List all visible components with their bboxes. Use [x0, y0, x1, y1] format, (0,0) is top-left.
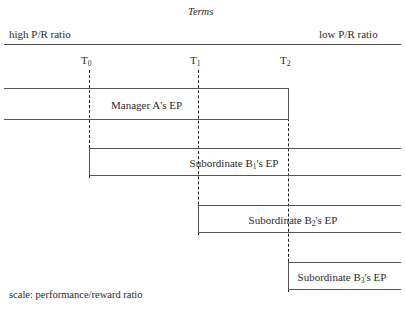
bar-subordinate-b3-bottom-edge: [288, 289, 401, 290]
tick-base-t2: T: [280, 54, 287, 66]
bar-manager-a-label: Manager A's EP: [4, 99, 289, 111]
bar-subordinate-b3-prefix: Subordinate B: [298, 271, 361, 283]
tick-sub-t0: 0: [88, 59, 92, 68]
bar-subordinate-b2-top-edge: [198, 205, 401, 206]
bar-manager-a: Manager A's EP: [4, 88, 289, 120]
figure-title: Terms: [188, 7, 213, 18]
pr-ratio-term-diagram: Terms high P/R ratio low P/R ratio T0 T1…: [0, 0, 405, 309]
tick-label-t2: T2: [280, 55, 290, 66]
bar-subordinate-b1: Subordinate B1's EP: [89, 148, 401, 176]
tick-sub-t2: 2: [287, 59, 291, 68]
bar-subordinate-b3-sub: 3: [361, 276, 365, 285]
bar-subordinate-b2-suffix: 's EP: [316, 214, 338, 226]
bar-subordinate-b2-label: Subordinate B2's EP: [198, 214, 388, 226]
axis-right-label: low P/R ratio: [319, 29, 378, 40]
bar-subordinate-b1-label: Subordinate B1's EP: [89, 157, 379, 169]
bar-subordinate-b1-prefix: Subordinate B: [190, 157, 253, 169]
tick-base-t1: T: [190, 54, 197, 66]
tick-label-t1: T1: [190, 55, 200, 66]
bar-subordinate-b1-suffix: 's EP: [257, 157, 279, 169]
bar-manager-a-text: Manager A's EP: [111, 99, 182, 111]
bar-subordinate-b1-bottom-edge: [89, 175, 401, 176]
bar-subordinate-b2-sub: 2: [312, 219, 316, 228]
axis-left-label: high P/R ratio: [9, 29, 71, 40]
bar-subordinate-b1-sub: 1: [253, 162, 257, 171]
horizontal-axis-line: [4, 44, 401, 45]
bar-subordinate-b2: Subordinate B2's EP: [198, 205, 401, 233]
bar-manager-a-top-edge: [4, 88, 289, 89]
bar-manager-a-bottom-edge: [4, 119, 289, 120]
tick-sub-t1: 1: [197, 59, 201, 68]
tick-base-t0: T: [81, 54, 88, 66]
tick-label-t0: T0: [81, 55, 91, 66]
bar-subordinate-b2-prefix: Subordinate B: [249, 214, 312, 226]
bar-subordinate-b3: Subordinate B3's EP: [288, 262, 401, 290]
bar-subordinate-b3-suffix: 's EP: [365, 271, 387, 283]
bar-subordinate-b1-top-edge: [89, 148, 401, 149]
bar-subordinate-b3-top-edge: [288, 262, 401, 263]
bar-subordinate-b2-bottom-edge: [198, 232, 401, 233]
figure-caption: scale: performance/reward ratio: [9, 290, 143, 301]
bar-subordinate-b3-label: Subordinate B3's EP: [288, 271, 396, 283]
